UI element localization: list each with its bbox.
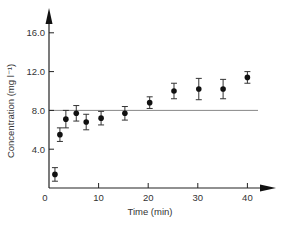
y-axis-label: Concentration (mg l⁻¹) [5, 64, 16, 158]
x-tick-label: 20 [143, 192, 154, 203]
data-point [220, 79, 226, 98]
x-tick-label: 10 [93, 192, 104, 203]
scatter-chart: 010203040 4.08.012.016.0 Time (min) Conc… [0, 0, 283, 226]
y-tick-label: 4.0 [32, 144, 45, 155]
data-point [171, 83, 177, 99]
y-tick-label: 16.0 [27, 27, 46, 38]
data-points [52, 72, 250, 182]
data-point [57, 128, 63, 142]
y-axis-arrow-icon [46, 8, 53, 24]
data-point [147, 97, 153, 109]
x-tick-label: 0 [42, 192, 47, 203]
x-tick-label: 30 [193, 192, 204, 203]
x-tick-label: 40 [242, 192, 253, 203]
y-axis-ticks: 4.08.012.016.0 [27, 27, 55, 154]
data-point [98, 111, 104, 125]
y-tick-label: 8.0 [32, 105, 45, 116]
x-axis-ticks: 010203040 [42, 183, 252, 203]
data-point [73, 106, 79, 122]
x-axis-arrow-icon [260, 185, 276, 192]
data-point [244, 72, 250, 84]
data-point [196, 78, 202, 99]
y-tick-label: 12.0 [27, 66, 46, 77]
data-point [122, 107, 128, 121]
x-axis-label: Time (min) [127, 206, 172, 217]
data-point [63, 110, 69, 127]
data-point [52, 168, 58, 182]
data-point [83, 114, 89, 130]
axes [46, 8, 277, 192]
